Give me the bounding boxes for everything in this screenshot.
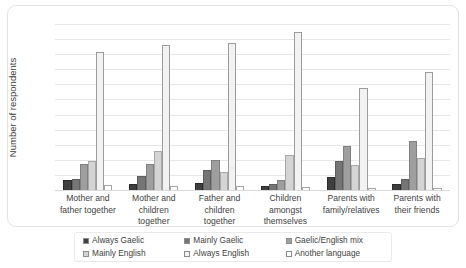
y-axis-title: Number of respondents — [6, 24, 20, 190]
bar — [302, 187, 310, 190]
legend-item[interactable]: Always English — [184, 249, 285, 258]
bar — [409, 141, 417, 190]
bar-group — [55, 24, 121, 190]
bar — [96, 52, 104, 190]
bar-groups — [55, 24, 450, 190]
bar — [417, 158, 425, 190]
legend-item[interactable]: Gaelic/English mix — [286, 236, 387, 245]
bar — [351, 165, 359, 190]
bar — [261, 186, 269, 190]
legend-swatch-icon — [286, 251, 292, 257]
legend-item[interactable]: Mainly English — [83, 249, 184, 258]
bar — [343, 146, 351, 190]
bar — [277, 180, 285, 190]
bar — [285, 155, 293, 190]
bar-group — [121, 24, 187, 190]
x-axis-category-label: Mother and children together — [121, 193, 187, 228]
chart-legend: Always GaelicMainly GaelicGaelic/English… — [74, 232, 392, 262]
legend-label: Another language — [295, 249, 361, 258]
x-axis-category-label: Father and children together — [187, 193, 253, 228]
chart-figure: Number of respondents 220200180160140120… — [0, 0, 466, 268]
legend-swatch-icon — [184, 251, 190, 257]
x-axis-category-label: Parents with family/relatives — [318, 193, 384, 228]
bar — [433, 188, 441, 190]
bar — [72, 179, 80, 190]
bar — [220, 172, 228, 190]
bar — [327, 177, 335, 190]
bar — [129, 184, 137, 190]
bar — [359, 88, 367, 190]
bar-group — [384, 24, 450, 190]
bar — [63, 180, 71, 190]
legend-swatch-icon — [83, 238, 89, 244]
legend-label: Mainly Gaelic — [193, 236, 243, 245]
bar-group — [252, 24, 318, 190]
bar — [162, 45, 170, 190]
bar — [392, 184, 400, 190]
legend-label: Gaelic/English mix — [295, 236, 363, 245]
bar — [170, 186, 178, 190]
legend-label: Always Gaelic — [92, 236, 144, 245]
x-axis-category-label: Parents with their friends — [384, 193, 450, 228]
legend-label: Always English — [193, 249, 249, 258]
bar — [368, 188, 376, 190]
bar-group — [187, 24, 253, 190]
bar-group — [318, 24, 384, 190]
bar — [335, 161, 343, 190]
bar — [80, 164, 88, 190]
bar — [88, 161, 96, 190]
bar — [425, 72, 433, 190]
legend-item[interactable]: Mainly Gaelic — [184, 236, 285, 245]
legend-label: Mainly English — [92, 249, 146, 258]
bar — [154, 151, 162, 190]
plot-area: 220200180160140120100806040200 — [55, 24, 450, 190]
legend-item[interactable]: Another language — [286, 249, 387, 258]
legend-swatch-icon — [184, 238, 190, 244]
x-axis-category-label: Mother and father together — [55, 193, 121, 228]
legend-swatch-icon — [83, 251, 89, 257]
legend-swatch-icon — [286, 238, 292, 244]
x-axis-labels: Mother and father togetherMother and chi… — [55, 193, 450, 228]
bar — [269, 184, 277, 190]
bar — [228, 43, 236, 190]
bar — [203, 170, 211, 190]
bar — [104, 185, 112, 190]
gridline — [55, 190, 450, 191]
bar — [294, 32, 302, 190]
y-axis-title-text: Number of respondents — [8, 57, 19, 156]
bar — [137, 176, 145, 190]
bar — [401, 179, 409, 190]
bar — [236, 186, 244, 190]
bar — [195, 183, 203, 190]
x-axis-category-label: Children amongst themselves — [252, 193, 318, 228]
bar — [146, 164, 154, 190]
bar — [211, 160, 219, 190]
legend-item[interactable]: Always Gaelic — [83, 236, 184, 245]
